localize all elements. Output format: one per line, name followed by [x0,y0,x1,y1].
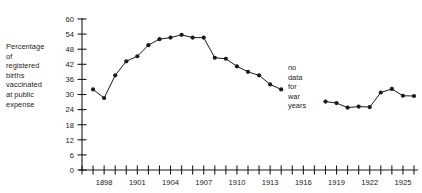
x-axis-tick-label: 1898 [96,178,113,187]
data-point [246,70,250,74]
data-point [279,87,283,91]
data-point [334,101,338,105]
y-axis-tick-label: 42 [66,60,74,69]
y-axis-tick-label: 24 [66,105,74,114]
data-point [357,104,361,108]
data-point [124,59,128,63]
series-line-pre-war [93,35,281,98]
data-point [135,54,139,58]
data-point [346,105,350,109]
data-point [146,43,150,47]
series-line-post-war [325,89,414,108]
data-point [412,94,416,98]
data-point [168,36,172,40]
x-axis-tick-label: 1919 [328,178,345,187]
x-axis-tick-label: 1916 [295,178,312,187]
data-point [379,90,383,94]
data-point [235,64,239,68]
data-point [102,96,106,100]
y-axis-tick-label: 12 [66,136,74,145]
chart-plot-area: 0612182430364248546018981901190419071910… [0,0,422,193]
data-point [202,36,206,40]
data-point [113,73,117,77]
x-axis-tick-label: 1907 [195,178,212,187]
y-axis-tick-label: 6 [70,151,74,160]
y-axis-tick-label: 30 [66,90,74,99]
data-point [180,33,184,37]
chart-figure: Percentage of registered births vaccinat… [0,0,422,193]
y-axis-tick-label: 54 [66,30,74,39]
x-axis-tick-label: 1922 [361,178,378,187]
data-point [91,87,95,91]
x-axis-tick-label: 1901 [129,178,146,187]
x-axis-tick-label: 1910 [228,178,245,187]
data-point [368,105,372,109]
data-point [224,57,228,61]
x-axis-tick-label: 1913 [262,178,279,187]
data-point [191,36,195,40]
y-axis-tick-label: 60 [66,15,74,24]
y-axis-tick-label: 18 [66,121,74,130]
data-point [257,73,261,77]
x-axis-tick-label: 1925 [394,178,411,187]
data-point [401,94,405,98]
y-axis-tick-label: 36 [66,75,74,84]
data-point [268,82,272,86]
data-point [213,56,217,60]
data-point [323,99,327,103]
y-axis-tick-label: 0 [70,166,74,175]
data-point [390,87,394,91]
x-axis-tick-label: 1904 [162,178,179,187]
y-axis-tick-label: 48 [66,45,74,54]
data-point [157,37,161,41]
